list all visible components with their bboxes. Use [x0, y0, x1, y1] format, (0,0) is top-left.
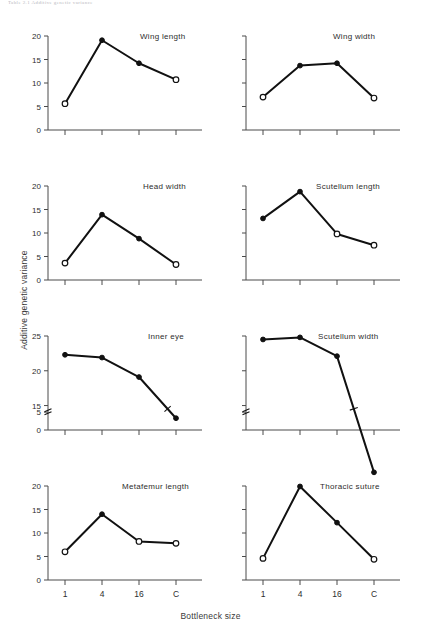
- chart-panel-second-left: Head width05101520: [30, 172, 208, 300]
- y-tick-label: 15: [32, 402, 41, 411]
- y-tick-label: 0: [37, 576, 42, 585]
- chart-panel-third-right: Scutellum width: [228, 322, 406, 450]
- axis-lines: [48, 336, 202, 430]
- chart-panel-second-right: Scutellum length: [228, 172, 406, 300]
- data-point-marker: [100, 212, 105, 217]
- y-tick-label: 20: [32, 32, 41, 41]
- chart-panel-third-left: Inner eye05152025: [30, 322, 208, 450]
- axis-lines: [48, 36, 202, 130]
- data-point-marker: [174, 416, 179, 421]
- x-tick-label: 1: [63, 589, 68, 599]
- data-point-marker: [334, 231, 340, 237]
- data-point-marker: [173, 77, 179, 83]
- x-tick-label: 16: [332, 589, 342, 599]
- data-point-marker: [371, 95, 377, 101]
- y-tick-label: 0: [37, 276, 42, 285]
- y-tick-label: 15: [32, 56, 41, 65]
- y-tick-label: 5: [37, 253, 42, 262]
- x-tick-label: 16: [134, 589, 144, 599]
- data-point-marker: [261, 216, 266, 221]
- y-tick-label: 20: [32, 482, 41, 491]
- data-series-line: [263, 192, 374, 246]
- data-point-marker: [260, 556, 266, 562]
- data-point-marker: [62, 549, 68, 555]
- chart-title-bottom-left: Metafemur length: [122, 482, 189, 491]
- data-series-line: [263, 486, 374, 559]
- chart-panel-bottom-left: Metafemur length051015201416C: [30, 472, 208, 600]
- chart-svg-third-right: [228, 322, 406, 450]
- axis-lines: [246, 486, 400, 580]
- data-point-marker: [335, 520, 340, 525]
- chart-title-second-left: Head width: [143, 182, 186, 191]
- y-tick-label: 10: [32, 529, 41, 538]
- chart-panel-top-right: Wing width: [228, 22, 406, 150]
- data-point-marker: [261, 337, 266, 342]
- data-point-marker: [62, 260, 68, 266]
- data-point-marker: [335, 354, 340, 359]
- data-series-line: [263, 337, 374, 472]
- data-point-marker: [137, 236, 142, 241]
- chart-panel-top-left: Wing length05101520: [30, 22, 208, 150]
- data-point-marker: [260, 94, 266, 100]
- chart-panel-bottom-right: Thoracic suture1416C: [228, 472, 406, 600]
- y-tick-label: 5: [37, 553, 42, 562]
- figure-page: Table 2.1 Additive genetic variance Addi…: [0, 0, 421, 643]
- data-point-marker: [63, 352, 68, 357]
- data-point-marker: [298, 63, 303, 68]
- chart-svg-bottom-left: 051015201416C: [30, 472, 208, 600]
- data-series-line: [65, 215, 176, 265]
- y-tick-label: 20: [32, 182, 41, 191]
- data-point-marker: [137, 61, 142, 66]
- axis-lines: [246, 186, 400, 280]
- axis-lines: [48, 486, 202, 580]
- data-point-marker: [298, 189, 303, 194]
- data-series-line: [263, 63, 374, 98]
- data-series-line: [65, 355, 176, 418]
- chart-title-second-right: Scutellum length: [316, 182, 380, 191]
- data-point-marker: [100, 38, 105, 43]
- data-point-marker: [173, 262, 179, 268]
- chart-title-third-left: Inner eye: [148, 332, 184, 341]
- chart-title-third-right: Scutellum width: [318, 332, 379, 341]
- data-point-marker: [62, 101, 68, 107]
- data-point-marker: [137, 375, 142, 380]
- x-tick-label: 1: [261, 589, 266, 599]
- chart-svg-second-left: 05101520: [30, 172, 208, 300]
- data-point-marker: [100, 355, 105, 360]
- data-series-line: [65, 514, 176, 552]
- data-point-marker: [136, 539, 142, 545]
- y-tick-label: 10: [32, 229, 41, 238]
- y-tick-label: 0: [37, 426, 42, 435]
- data-point-marker: [298, 335, 303, 340]
- data-point-marker: [335, 61, 340, 66]
- y-tick-label: 15: [32, 506, 41, 515]
- chart-svg-top-left: 05101520: [30, 22, 208, 150]
- x-tick-label: 4: [100, 589, 105, 599]
- y-tick-label: 15: [32, 206, 41, 215]
- data-point-marker: [371, 557, 377, 563]
- y-tick-label: 25: [32, 332, 41, 341]
- data-point-marker: [298, 484, 303, 489]
- x-tick-label: C: [173, 589, 179, 599]
- chart-svg-third-left: 05152025: [30, 322, 208, 450]
- data-point-marker: [100, 512, 105, 517]
- y-tick-label: 20: [32, 367, 41, 376]
- chart-title-top-right: Wing width: [333, 32, 375, 41]
- y-tick-label: 5: [37, 103, 42, 112]
- y-tick-label: 0: [37, 126, 42, 135]
- figure-area: Additive genetic variance Bottleneck siz…: [0, 0, 421, 643]
- x-tick-label: 4: [298, 589, 303, 599]
- chart-title-top-left: Wing length: [140, 32, 186, 41]
- data-point-marker: [173, 541, 179, 547]
- chart-svg-second-right: [228, 172, 406, 300]
- x-axis-title: Bottleneck size: [0, 611, 421, 621]
- data-series-line: [65, 40, 176, 103]
- y-tick-label: 10: [32, 79, 41, 88]
- chart-title-bottom-right: Thoracic suture: [320, 482, 380, 491]
- chart-svg-bottom-right: 1416C: [228, 472, 406, 600]
- y-axis-title: Additive genetic variance: [19, 230, 29, 370]
- data-point-marker: [371, 242, 377, 248]
- axis-lines: [246, 36, 400, 130]
- x-tick-label: C: [371, 589, 377, 599]
- chart-svg-top-right: [228, 22, 406, 150]
